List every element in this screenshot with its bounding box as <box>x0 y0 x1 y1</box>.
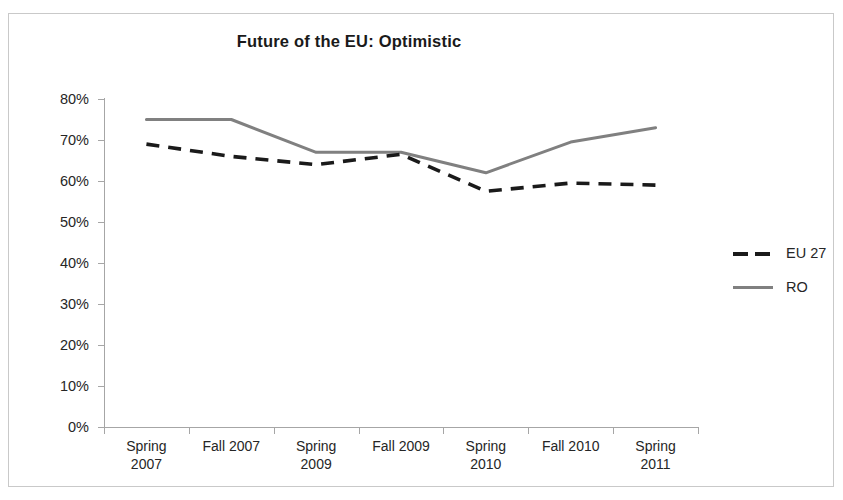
x-tick-mark <box>189 427 190 434</box>
x-category-label: Fall 2007 <box>185 438 277 456</box>
y-tick-label: 60% <box>27 173 89 189</box>
x-category-label: Fall 2010 <box>525 438 617 456</box>
x-tick-mark <box>528 427 529 434</box>
y-tick-label: 10% <box>27 378 89 394</box>
legend-swatch-icon <box>733 246 777 260</box>
y-tick-label: 50% <box>27 214 89 230</box>
x-tick-mark <box>274 427 275 434</box>
x-tick-mark <box>613 427 614 434</box>
y-tick-label: 80% <box>27 91 89 107</box>
chart-frame: Future of the EU: Optimistic 0%10%20%30%… <box>8 13 834 487</box>
series-line-ro <box>146 120 655 173</box>
x-category-label: Spring2011 <box>610 438 702 474</box>
y-tick-label: 40% <box>27 255 89 271</box>
legend-item-eu-27[interactable]: EU 27 <box>733 236 843 270</box>
x-axis-line <box>104 427 699 428</box>
y-tick-label: 30% <box>27 296 89 312</box>
chart-title: Future of the EU: Optimistic <box>9 32 689 51</box>
x-tick-mark <box>359 427 360 434</box>
x-category-label: Fall 2009 <box>355 438 447 456</box>
x-tick-mark <box>104 427 105 434</box>
y-tick-label: 70% <box>27 132 89 148</box>
legend-item-ro[interactable]: RO <box>733 270 843 304</box>
plot-lines <box>104 99 698 427</box>
x-category-label: Spring2009 <box>270 438 362 474</box>
y-tick-label: 0% <box>27 419 89 435</box>
x-category-label: Spring2007 <box>100 438 192 474</box>
y-tick-label: 20% <box>27 337 89 353</box>
x-tick-mark <box>698 427 699 434</box>
x-category-label: Spring2010 <box>440 438 532 474</box>
legend-label: EU 27 <box>786 245 826 261</box>
legend-swatch-icon <box>733 280 777 294</box>
chart-legend: EU 27RO <box>733 236 843 304</box>
x-tick-mark <box>443 427 444 434</box>
legend-label: RO <box>786 279 808 295</box>
